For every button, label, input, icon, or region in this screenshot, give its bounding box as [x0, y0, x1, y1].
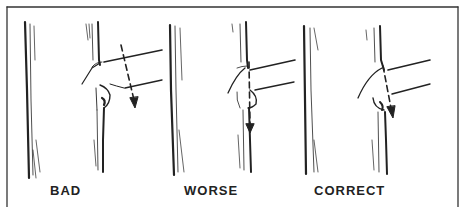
panel-correct-drawing [358, 26, 430, 174]
pruning-illustration [0, 0, 463, 207]
label-worse: WORSE [184, 183, 238, 198]
trunk-2 [170, 25, 184, 175]
label-bad: BAD [50, 183, 81, 198]
label-correct: CORRECT [314, 183, 385, 198]
diagram-frame [0, 0, 463, 207]
panel-worse-drawing [228, 22, 295, 172]
trunk-1 [25, 22, 40, 178]
trunk-3 [304, 26, 318, 174]
panel-bad-drawing [82, 22, 162, 172]
